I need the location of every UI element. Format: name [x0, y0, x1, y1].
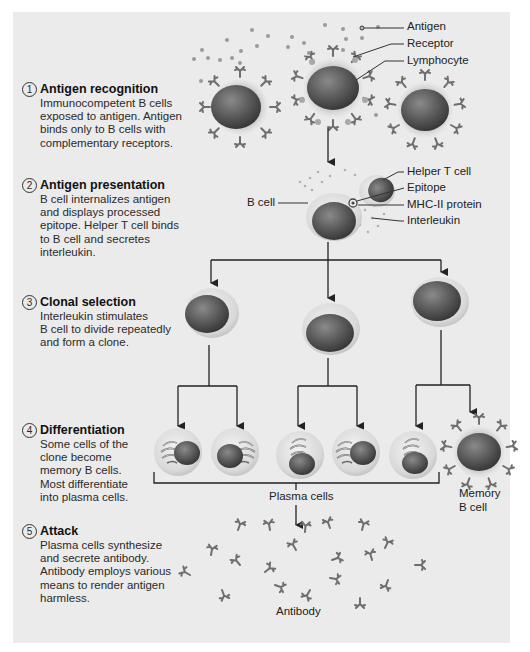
label-helper-t-cell: Helper T cell: [407, 165, 471, 177]
label-b-cell: B cell: [247, 196, 275, 208]
step-line: binds only to B cells with: [40, 123, 197, 136]
step-description: Some cells of the clone become memory B …: [22, 438, 197, 504]
step-number-badge: 2: [22, 178, 37, 193]
lymphocyte-center: [292, 46, 375, 130]
label-mhc-ii-protein: MHC-II protein: [407, 198, 482, 210]
label-epitope: Epitope: [407, 181, 446, 193]
step-line: Some cells of the: [40, 438, 197, 451]
step-description: Plasma cells synthesize and secrete anti…: [22, 539, 197, 605]
label-interleukin: Interleukin: [407, 214, 460, 226]
step-line: interleukin.: [40, 246, 197, 259]
step-description: Immunocompetent B cells exposed to antig…: [22, 97, 197, 150]
lymphocyte-right: [385, 70, 466, 149]
step-antigen-presentation: 2Antigen presentation B cell internalize…: [22, 178, 197, 259]
label-antigen: Antigen: [407, 20, 446, 32]
step-line: B cell internalizes antigen: [40, 193, 197, 206]
step-line: and displays processed: [40, 206, 197, 219]
step-line: means to render antigen: [40, 579, 197, 592]
step-line: and form a clone.: [40, 336, 197, 349]
step-line: Most differentiate: [40, 478, 197, 491]
step-title: Antigen presentation: [40, 179, 165, 192]
step-number-badge: 5: [22, 524, 37, 539]
step-line: Antibody employs various: [40, 565, 197, 578]
label-memory: Memory: [459, 487, 501, 499]
step-line: Immunocompetent B cells: [40, 97, 197, 110]
lymphocyte-left: [200, 67, 280, 147]
step-line: clone become: [40, 451, 197, 464]
step-attack: 5Attack Plasma cells synthesize and secr…: [22, 524, 197, 605]
step-line: B cell to divide repeatedly: [40, 323, 197, 336]
step-title: Antigen recognition: [40, 83, 158, 96]
clonal-selection-arrows: [211, 242, 441, 298]
step-description: B cell internalizes antigen and displays…: [22, 193, 197, 259]
label-lymphocyte: Lymphocyte: [407, 54, 469, 66]
step-antigen-recognition: 1Antigen recognition Immunocompetent B c…: [22, 82, 197, 150]
step-number-badge: 3: [22, 295, 37, 310]
leader-lines-top: [353, 26, 404, 80]
step-clonal-selection: 3Clonal selection Interleukin stimulates…: [22, 295, 197, 350]
label-receptor: Receptor: [407, 37, 454, 49]
step-line: exposed to antigen. Antigen: [40, 110, 197, 123]
step-line: and secrete antibody.: [40, 552, 197, 565]
step-line: memory B cells.: [40, 464, 197, 477]
step-line: Plasma cells synthesize: [40, 539, 197, 552]
step-title: Attack: [40, 525, 78, 538]
label-memory-b-cell: B cell: [459, 501, 487, 513]
step-line: Interleukin stimulates: [40, 310, 197, 323]
step-line: epitope. Helper T cell binds: [40, 219, 197, 232]
label-antibody: Antibody: [276, 605, 321, 617]
memory-b-cell: [441, 414, 518, 489]
step-number-badge: 4: [22, 423, 37, 438]
clone-cells: [185, 277, 469, 355]
step-line: to B cell and secretes: [40, 233, 197, 246]
step-line: into plasma cells.: [40, 491, 197, 504]
label-plasma-cells: Plasma cells: [269, 490, 334, 502]
step-line: harmless.: [40, 592, 197, 605]
step-title: Differentiation: [40, 424, 125, 437]
step-differentiation: 4Differentiation Some cells of the clone…: [22, 423, 197, 504]
antibodies: [179, 517, 425, 608]
step-number-badge: 1: [22, 82, 37, 97]
step-description: Interleukin stimulates B cell to divide …: [22, 310, 197, 350]
step-title: Clonal selection: [40, 296, 136, 309]
step-line: complementary receptors.: [40, 137, 197, 150]
